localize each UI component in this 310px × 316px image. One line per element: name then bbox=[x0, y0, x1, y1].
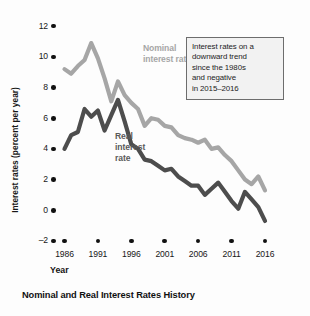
annotation-line-3: since the 1980s bbox=[192, 63, 278, 73]
y-tick-dot bbox=[51, 116, 56, 121]
series-label-real-line1: Real bbox=[115, 131, 145, 142]
series-label-real: Real interest rate bbox=[115, 131, 145, 164]
x-tick-dot bbox=[229, 239, 234, 244]
x-tick-dot bbox=[129, 239, 134, 244]
series-label-nominal-line1: Nominal bbox=[143, 43, 191, 54]
y-tick-dot bbox=[51, 55, 56, 60]
x-tick-label: 1986 bbox=[48, 249, 82, 259]
x-tick-dot bbox=[162, 239, 167, 244]
y-tick-label: 12 bbox=[24, 21, 48, 31]
annotation-box: Interest rates on a downward trend since… bbox=[186, 37, 284, 100]
y-tick-dot bbox=[51, 85, 56, 90]
y-tick-dot bbox=[51, 147, 56, 152]
annotation-line-4: and negative bbox=[192, 73, 278, 83]
y-axis-label: Interest rates (percent per year) bbox=[8, 60, 22, 240]
x-tick-dot bbox=[96, 239, 101, 244]
y-tick-dot bbox=[51, 24, 56, 29]
x-tick-label: 1996 bbox=[114, 249, 148, 259]
series-label-real-line3: rate bbox=[115, 153, 145, 164]
y-tick-dot bbox=[51, 177, 56, 182]
x-tick-dot bbox=[62, 239, 67, 244]
y-tick-label: 0 bbox=[24, 205, 48, 215]
y-tick-dot bbox=[51, 208, 56, 213]
annotation-line-5: in 2015–2016 bbox=[192, 84, 278, 94]
annotation-line-2: downward trend bbox=[192, 52, 278, 62]
series-label-nominal-line2: interest rate bbox=[143, 54, 191, 65]
series-label-nominal: Nominal interest rate bbox=[143, 43, 191, 65]
series-line-real bbox=[65, 100, 266, 221]
figure-caption: Nominal and Real Interest Rates History bbox=[22, 290, 195, 300]
y-tick-label: –2 bbox=[24, 235, 48, 245]
x-axis-label: Year bbox=[50, 265, 69, 275]
y-tick-label: 10 bbox=[24, 51, 48, 61]
y-tick-dot bbox=[51, 239, 56, 244]
x-tick-label: 2001 bbox=[148, 249, 182, 259]
y-tick-label: 6 bbox=[24, 113, 48, 123]
chart-figure: Interest rates (percent per year) 121086… bbox=[0, 0, 310, 316]
x-tick-label: 2006 bbox=[181, 249, 215, 259]
x-tick-label: 1991 bbox=[81, 249, 115, 259]
annotation-line-1: Interest rates on a bbox=[192, 42, 278, 52]
x-tick-dot bbox=[196, 239, 201, 244]
y-tick-label: 8 bbox=[24, 82, 48, 92]
y-axis-label-text: Interest rates (percent per year) bbox=[10, 87, 20, 213]
x-tick-label: 2011 bbox=[215, 249, 249, 259]
x-tick-label: 2016 bbox=[248, 249, 282, 259]
series-label-real-line2: interest bbox=[115, 142, 145, 153]
y-tick-label: 4 bbox=[24, 143, 48, 153]
x-tick-dot bbox=[263, 239, 268, 244]
y-tick-label: 2 bbox=[24, 174, 48, 184]
